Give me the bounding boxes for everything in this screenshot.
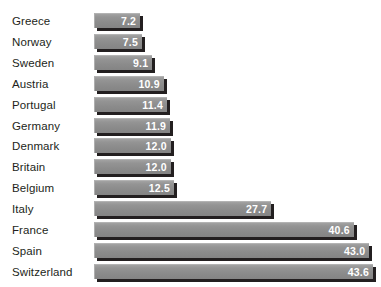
- bar-fill: 11.9: [94, 118, 170, 133]
- bar-value-label: 43.6: [348, 265, 369, 280]
- bar-fill: 43.6: [94, 264, 373, 279]
- bar-value-label: 7.2: [121, 14, 136, 29]
- bar-fill: 43.0: [94, 243, 369, 258]
- bar-value-label: 12.0: [146, 160, 167, 175]
- category-label: Germany: [12, 117, 60, 135]
- bar: 7.5: [94, 34, 142, 52]
- bar-value-label: 12.5: [149, 181, 170, 196]
- category-label: Denmark: [12, 137, 59, 155]
- bar-fill: 11.4: [94, 97, 167, 112]
- bar-fill: 9.1: [94, 55, 152, 70]
- bar: 11.9: [94, 118, 170, 136]
- chart-row: Spain43.0: [0, 242, 381, 263]
- chart-row: Denmark12.0: [0, 137, 381, 158]
- bar: 11.4: [94, 97, 167, 115]
- category-label: Greece: [12, 12, 50, 30]
- category-label: France: [12, 221, 48, 239]
- chart-row: Norway7.5: [0, 33, 381, 54]
- chart-row: Sweden9.1: [0, 54, 381, 75]
- bar: 43.6: [94, 264, 373, 282]
- chart-row: Belgium12.5: [0, 179, 381, 200]
- bar: 7.2: [94, 13, 140, 31]
- chart-row: Greece7.2: [0, 12, 381, 33]
- chart-row: Italy27.7: [0, 200, 381, 221]
- category-label: Austria: [12, 75, 49, 93]
- bar: 27.7: [94, 201, 271, 219]
- bar-fill: 10.9: [94, 76, 164, 91]
- bar-value-label: 11.4: [142, 98, 163, 113]
- bar-fill: 12.0: [94, 159, 171, 174]
- bar: 12.0: [94, 138, 171, 156]
- bar-value-label: 43.0: [344, 244, 365, 259]
- bar: 40.6: [94, 222, 354, 240]
- bar-fill: 27.7: [94, 201, 271, 216]
- bar-fill: 40.6: [94, 222, 354, 237]
- bar: 9.1: [94, 55, 152, 73]
- bar: 12.0: [94, 159, 171, 177]
- bar-fill: 7.5: [94, 34, 142, 49]
- category-label: Spain: [12, 242, 42, 260]
- bar-value-label: 10.9: [139, 77, 160, 92]
- category-label: Portugal: [12, 96, 56, 114]
- bar: 12.5: [94, 180, 174, 198]
- bar: 10.9: [94, 76, 164, 94]
- chart-row: Austria10.9: [0, 75, 381, 96]
- bar-fill: 12.5: [94, 180, 174, 195]
- bar-fill: 12.0: [94, 138, 171, 153]
- bar-value-label: 12.0: [146, 139, 167, 154]
- bar-value-label: 7.5: [123, 35, 138, 50]
- category-label: Switzerland: [12, 263, 73, 281]
- chart-row: Britain12.0: [0, 158, 381, 179]
- bar-fill: 7.2: [94, 13, 140, 28]
- category-label: Italy: [12, 200, 34, 218]
- bar-value-label: 9.1: [133, 56, 148, 71]
- category-label: Sweden: [12, 54, 54, 72]
- bar: 43.0: [94, 243, 369, 261]
- category-label: Belgium: [12, 179, 54, 197]
- bar-value-label: 11.9: [145, 119, 166, 134]
- chart-row: Portugal11.4: [0, 96, 381, 117]
- category-label: Britain: [12, 158, 45, 176]
- chart-row: Germany11.9: [0, 117, 381, 138]
- horizontal-bar-chart: Greece7.2Norway7.5Sweden9.1Austria10.9Po…: [0, 0, 381, 287]
- chart-row: Switzerland43.6: [0, 263, 381, 284]
- category-label: Norway: [12, 33, 52, 51]
- bar-value-label: 27.7: [246, 202, 267, 217]
- bar-value-label: 40.6: [329, 223, 350, 238]
- chart-row: France40.6: [0, 221, 381, 242]
